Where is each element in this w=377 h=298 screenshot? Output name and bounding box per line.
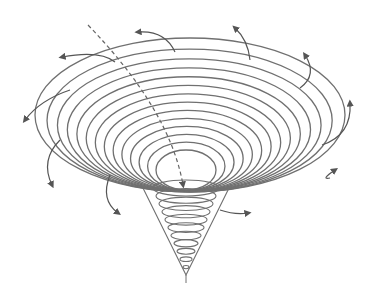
flow-arrows bbox=[25, 28, 350, 214]
cone-coil bbox=[183, 265, 189, 268]
flow-arrow bbox=[300, 55, 310, 88]
vortex-ring bbox=[35, 38, 345, 192]
cone-coil bbox=[174, 240, 198, 247]
cone-coil bbox=[177, 248, 195, 254]
vortex-ring bbox=[156, 150, 216, 190]
flow-arrow bbox=[62, 54, 115, 62]
vortex-ring bbox=[57, 59, 321, 192]
funnel-cone bbox=[141, 180, 231, 283]
vortex-ring bbox=[67, 68, 310, 192]
vortex-ring bbox=[47, 49, 332, 192]
cone-coil bbox=[165, 214, 207, 225]
vortex-rings bbox=[35, 38, 345, 192]
flow-arrow bbox=[220, 210, 248, 214]
vortex-diagram bbox=[0, 0, 377, 298]
cone-coil bbox=[180, 257, 192, 262]
vortex-ring bbox=[131, 126, 244, 190]
vortex-illustration bbox=[0, 0, 377, 298]
flow-arrow bbox=[326, 170, 335, 178]
vortex-ring bbox=[104, 102, 271, 191]
flow-arrow bbox=[322, 103, 350, 145]
